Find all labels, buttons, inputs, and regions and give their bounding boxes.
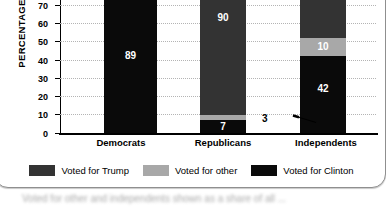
callout-value-3: 3 xyxy=(262,113,268,124)
ytick-mark-20: 20 xyxy=(55,96,60,97)
ytick-mark-30: 30 xyxy=(55,78,60,79)
bar-value-republicans-trump: 90 xyxy=(200,13,246,23)
ytick-label-30: 30 xyxy=(38,74,48,84)
ytick-label-40: 40 xyxy=(38,56,48,66)
chart-legend: Voted for Trump Voted for other Voted fo… xyxy=(0,160,383,180)
ytick-mark-70: 70 xyxy=(55,5,60,6)
bar-segment-republicans-other[interactable] xyxy=(200,115,246,121)
legend-item-clinton[interactable]: Voted for Clinton xyxy=(251,165,353,176)
body-text-below-figure: Voted for other and independents shown a… xyxy=(0,192,383,209)
ytick-label-70: 70 xyxy=(38,1,48,11)
bar-segment-republicans-clinton[interactable]: 7 xyxy=(200,120,246,133)
bar-segment-independents-other[interactable]: 10 xyxy=(300,38,346,56)
ytick-label-0: 0 xyxy=(43,129,48,139)
y-axis-title: PERCENTAGE xyxy=(16,0,27,89)
ytick-mark-40: 40 xyxy=(55,60,60,61)
ytick-mark-50: 50 xyxy=(55,41,60,42)
ytick-label-20: 20 xyxy=(38,92,48,102)
callout-leader-line xyxy=(292,114,322,124)
ytick-mark-0: 0 xyxy=(55,133,60,134)
bar-republicans[interactable]: 7 90 xyxy=(200,0,246,133)
plot-area: 70 60 50 40 30 20 10 0 xyxy=(60,0,376,133)
legend-swatch-clinton-icon xyxy=(251,165,277,176)
legend-item-other[interactable]: Voted for other xyxy=(143,165,237,176)
legend-item-trump[interactable]: Voted for Trump xyxy=(29,165,129,176)
bar-segment-independents-trump[interactable] xyxy=(300,0,346,38)
ytick-label-10: 10 xyxy=(38,110,48,120)
category-label-independents: Independents xyxy=(288,137,364,148)
bar-value-republicans-clinton: 7 xyxy=(200,122,246,132)
legend-swatch-other-icon xyxy=(143,165,169,176)
ytick-mark-60: 60 xyxy=(55,23,60,24)
category-label-republicans: Republicans xyxy=(185,137,261,148)
stacked-bar-chart: PERCENTAGE 70 60 50 40 30 20 10 xyxy=(0,0,383,187)
bar-segment-democrats-clinton[interactable]: 89 xyxy=(104,0,157,133)
legend-label-trump: Voted for Trump xyxy=(61,165,129,176)
ytick-label-60: 60 xyxy=(38,19,48,29)
bar-segment-republicans-trump[interactable]: 90 xyxy=(200,0,246,115)
x-axis-line xyxy=(59,133,378,135)
bar-value-independents-clinton: 42 xyxy=(300,84,346,94)
bar-democrats[interactable]: 89 xyxy=(104,0,157,133)
legend-swatch-trump-icon xyxy=(29,165,55,176)
ytick-mark-10: 10 xyxy=(55,114,60,115)
bar-value-democrats-clinton: 89 xyxy=(104,51,157,61)
legend-label-clinton: Voted for Clinton xyxy=(283,165,353,176)
body-text-line: Voted for other and independents shown a… xyxy=(22,193,286,204)
ytick-label-50: 50 xyxy=(38,37,48,47)
bar-value-independents-other: 10 xyxy=(300,42,346,52)
category-label-democrats: Democrats xyxy=(86,137,156,148)
legend-label-other: Voted for other xyxy=(175,165,237,176)
